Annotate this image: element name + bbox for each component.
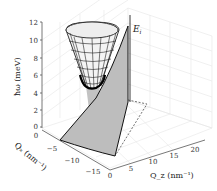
z-tick-2: 2 xyxy=(34,107,38,115)
y-tick-15: 15 xyxy=(170,152,179,160)
x-tick-m5: −5 xyxy=(47,145,57,153)
z-axis-label: ħω (meV) xyxy=(13,57,22,96)
y-tick-0: 0 xyxy=(108,172,112,180)
z-tick-8: 8 xyxy=(34,55,38,63)
x-tick-0: 0 xyxy=(34,132,38,140)
z-tick-6: 6 xyxy=(34,72,39,80)
x-axis-label: Qₓ (nm⁻¹) xyxy=(13,141,49,173)
y-axis: 0 5 10 15 20 Q_z (nm⁻¹) xyxy=(108,140,205,180)
y-tick-20: 20 xyxy=(191,146,200,154)
z-tick-0: 0 xyxy=(34,123,38,131)
y-tick-10: 10 xyxy=(149,158,158,166)
z-tick-4: 4 xyxy=(34,90,39,98)
z-tick-10: 10 xyxy=(29,37,38,45)
y-axis-label: Q_z (nm⁻¹) xyxy=(150,171,194,180)
y-tick-5: 5 xyxy=(129,165,133,173)
x-tick-m15: −15 xyxy=(86,168,101,176)
ei-label: Ei xyxy=(132,24,142,35)
x-tick-m10: −10 xyxy=(65,157,80,165)
3d-plot: 12 10 8 6 4 2 0 ħω (meV) 0 −5 −10 −15 Qₓ… xyxy=(0,0,217,191)
z-axis: 12 10 8 6 4 2 0 ħω (meV) xyxy=(13,19,42,131)
z-tick-12: 12 xyxy=(29,19,38,27)
